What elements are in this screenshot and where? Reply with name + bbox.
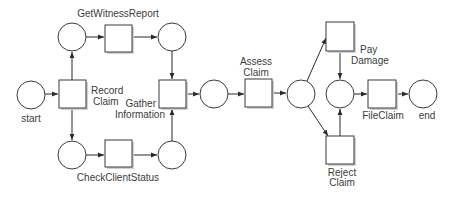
place-witness-in[interactable] (58, 23, 86, 51)
place-witness-out[interactable] (158, 23, 186, 51)
transition-pay-damage[interactable] (326, 22, 354, 51)
place-client-in[interactable] (58, 141, 86, 169)
place-end[interactable] (409, 80, 437, 108)
place-gathered[interactable] (200, 80, 228, 108)
transition-get-witness-report[interactable] (105, 25, 132, 52)
petri-net-diagram: start end Record Claim GetWitnessReport … (0, 0, 454, 197)
label-check-client-status: CheckClientStatus (77, 172, 159, 183)
label-record-claim-2: Claim (93, 96, 119, 107)
place-assessed[interactable] (287, 80, 315, 108)
place-start[interactable] (17, 81, 45, 109)
label-start: start (21, 113, 41, 124)
transition-reject-claim[interactable] (326, 136, 354, 164)
label-reject-claim-2: Claim (329, 177, 355, 188)
transition-file-claim[interactable] (368, 80, 396, 108)
label-gather-information-2: Information (115, 109, 165, 120)
place-client-out[interactable] (158, 141, 186, 169)
transition-check-client-status[interactable] (105, 140, 132, 167)
label-file-claim: FileClaim (362, 110, 404, 121)
transition-record-claim[interactable] (59, 80, 86, 108)
label-get-witness-report: GetWitnessReport (77, 8, 159, 19)
label-pay-damage-1: Pay (360, 44, 377, 55)
arc-assessed-reject (308, 106, 328, 136)
label-gather-information-1: Gather (125, 98, 156, 109)
label-record-claim-1: Record (91, 85, 123, 96)
place-decided[interactable] (326, 80, 354, 108)
label-assess-claim-1: Assess (240, 56, 272, 67)
label-pay-damage-2: Damage (351, 55, 389, 66)
transition-gather-information[interactable] (159, 80, 186, 108)
arc-assessed-pay (307, 38, 326, 81)
label-end: end (419, 110, 436, 121)
transition-assess-claim[interactable] (245, 79, 272, 107)
label-assess-claim-2: Claim (243, 67, 269, 78)
